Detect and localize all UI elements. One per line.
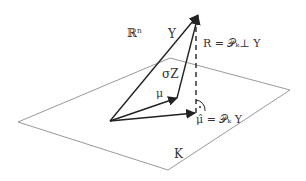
right-angle-dot <box>199 106 201 108</box>
label-mu-hat: μ̂ = 𝒫ₖ Y <box>196 114 242 125</box>
label-sigma-z: σZ <box>162 68 179 80</box>
label-residual: R = 𝒫ₖ⊥ Y <box>203 38 261 49</box>
projection-diagram: ℝⁿ Y R = 𝒫ₖ⊥ Y σZ μ μ̂ = 𝒫ₖ Y K <box>0 0 306 181</box>
label-y: Y <box>168 28 176 40</box>
plane-k <box>18 58 290 170</box>
label-mu: μ <box>156 88 163 99</box>
label-cone-k: K <box>174 148 183 160</box>
diagram-graphics <box>0 0 306 181</box>
right-angle-marker <box>196 100 205 111</box>
label-space-rn: ℝⁿ <box>127 27 142 39</box>
